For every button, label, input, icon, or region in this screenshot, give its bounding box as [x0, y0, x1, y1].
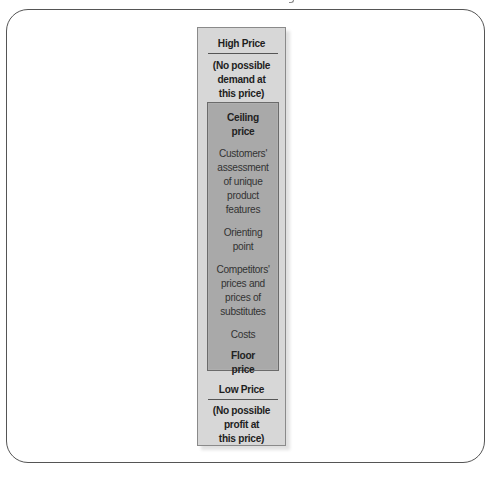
customers-assessment-line-3: of unique	[211, 175, 275, 189]
acceptable-price-range-box: Ceiling price Customers' assessment of u…	[207, 102, 279, 371]
floor-price-line-1: Floor	[211, 349, 275, 363]
no-demand-note-line-2: demand at	[201, 73, 281, 87]
high-price-divider	[208, 53, 278, 54]
price-scale-box: High Price (No possible demand at this p…	[197, 27, 286, 446]
ceiling-price-line-1: Ceiling	[211, 111, 275, 125]
low-price-divider	[208, 399, 278, 400]
competitors-prices-line-2: prices and	[211, 277, 275, 291]
orienting-point-line-2: point	[211, 240, 275, 254]
no-demand-note-line-1: (No possible	[201, 59, 281, 73]
no-profit-note-line-3: this price)	[201, 432, 281, 446]
no-demand-note-line-3: this price)	[201, 87, 281, 101]
competitors-prices-line-1: Competitors'	[211, 263, 275, 277]
customers-assessment-line-4: product	[211, 189, 275, 203]
customers-assessment-line-1: Customers'	[211, 147, 275, 161]
cropped-glyph-fragment	[289, 0, 294, 3]
orienting-point-line-1: Orienting	[211, 226, 275, 240]
no-profit-note-line-2: profit at	[201, 418, 281, 432]
customers-assessment-line-5: features	[211, 203, 275, 217]
high-price-heading: High Price	[201, 37, 281, 51]
costs-label: Costs	[211, 328, 275, 342]
ceiling-price-line-2: price	[211, 125, 275, 139]
low-price-heading: Low Price	[201, 383, 281, 397]
no-profit-note-line-1: (No possible	[201, 404, 281, 418]
customers-assessment-line-2: assessment	[211, 161, 275, 175]
competitors-prices-line-4: substitutes	[211, 305, 275, 319]
competitors-prices-line-3: prices of	[211, 291, 275, 305]
floor-price-line-2: price	[211, 363, 275, 377]
